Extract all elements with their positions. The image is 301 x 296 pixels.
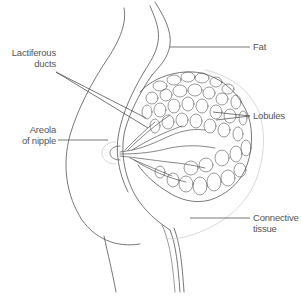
lower-chest-line-3	[162, 225, 175, 292]
nipple	[110, 146, 120, 160]
label-line: Fat	[253, 41, 266, 52]
chest-wall-inner	[144, 6, 159, 72]
label-line: tissue	[253, 223, 299, 234]
label-line: ducts	[2, 58, 56, 69]
chest-wall-outer	[152, 2, 170, 75]
lower-torso-outline	[104, 236, 116, 292]
body-outline	[66, 8, 140, 245]
leader-ducts-b	[56, 72, 148, 128]
leader-lobules-a	[213, 112, 250, 116]
label-fat: Fat	[253, 41, 266, 52]
label-areola-of-nipple: Areola of nipple	[2, 124, 56, 146]
label-lobules: Lobules	[253, 110, 285, 121]
label-line: Areola	[2, 124, 56, 135]
label-line: Lactiferous	[2, 47, 56, 58]
label-lactiferous-ducts: Lactiferous ducts	[2, 47, 56, 69]
leader-lobules-b	[216, 116, 250, 120]
areola-outline	[102, 142, 116, 164]
gland-outline	[138, 72, 252, 202]
leader-ducts-a	[56, 72, 146, 118]
label-line: Connective	[253, 212, 299, 223]
pectoral-boundary-2	[117, 72, 144, 192]
label-line: Lobules	[253, 110, 285, 121]
label-connective-tissue: Connective tissue	[253, 212, 299, 234]
label-line: of nipple	[2, 135, 56, 146]
